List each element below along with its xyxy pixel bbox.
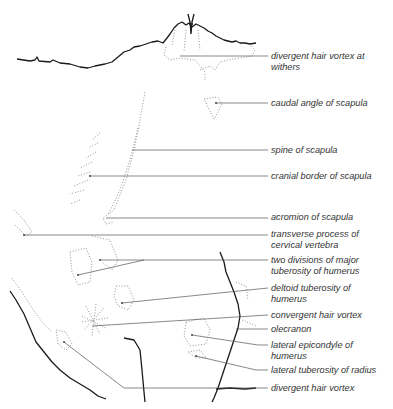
label-line: lateral epicondyle of [271, 340, 353, 351]
deltoid-tuberosity-shape [114, 286, 134, 310]
label-two-divisions-major-tuberosity: two divisions of major tuberosity of hum… [271, 255, 359, 276]
label-line: transverse process of [271, 229, 359, 240]
label-lateral-tuberosity-radius: lateral tuberosity of radius [271, 365, 376, 376]
transverse-process-shape [14, 210, 32, 236]
label-line: withers [271, 62, 364, 73]
label-line: deltoid tuberosity of [271, 283, 351, 294]
label-caudal-angle-of-scapula: caudal angle of scapula [271, 98, 368, 109]
withers-dotted-region [164, 30, 255, 80]
label-spine-of-scapula: spine of scapula [271, 145, 337, 156]
label-line: cranial border of scapula [271, 171, 372, 182]
label-olecranon: olecranon [271, 324, 311, 335]
label-line: humerus [271, 351, 353, 362]
label-line: tuberosity of humerus [271, 266, 359, 277]
label-cranial-border-of-scapula: cranial border of scapula [271, 171, 372, 182]
lateral-epicondyle-shape [184, 318, 210, 346]
label-lateral-epicondyle: lateral epicondyle of humerus [271, 340, 353, 361]
forelimb-inner-outline [124, 338, 145, 402]
lateral-tuberosity-shape [188, 350, 206, 358]
label-line: convergent hair vortex [271, 310, 362, 321]
label-line: divergent hair vortex [271, 383, 354, 394]
label-acromion-of-scapula: acromion of scapula [271, 212, 353, 223]
label-line: spine of scapula [271, 145, 337, 156]
caudal-angle-shape [204, 97, 222, 119]
mane-tuft [188, 14, 194, 34]
label-line: lateral tuberosity of radius [271, 365, 376, 376]
chest-outline [10, 291, 106, 399]
label-line: caudal angle of scapula [271, 98, 368, 109]
label-divergent-hair-vortex-withers: divergent hair vortex at withers [271, 51, 364, 72]
neck-dotted [12, 278, 52, 332]
label-transverse-process: transverse process of cervical vertebra [271, 229, 359, 250]
label-line: humerus [271, 294, 351, 305]
label-divergent-hair-vortex: divergent hair vortex [271, 383, 354, 394]
label-deltoid-tuberosity: deltoid tuberosity of humerus [271, 283, 351, 304]
label-convergent-hair-vortex: convergent hair vortex [271, 310, 362, 321]
divergent-vortex-mark [56, 330, 72, 350]
label-line: olecranon [271, 324, 311, 335]
scapula-cranial-dotted [70, 133, 100, 204]
label-line: two divisions of major [271, 255, 359, 266]
label-line: divergent hair vortex at [271, 51, 364, 62]
label-line: acromion of scapula [271, 212, 353, 223]
leader-lines [24, 56, 268, 388]
scapula-spine-dotted [103, 92, 145, 224]
convergent-vortex-mark [82, 304, 108, 336]
major-tuberosity-shape [70, 236, 118, 285]
back-outline [17, 22, 256, 68]
leader-dots [23, 102, 217, 357]
label-line: cervical vertebra [271, 240, 359, 251]
forelimb-front-outline [212, 252, 240, 402]
